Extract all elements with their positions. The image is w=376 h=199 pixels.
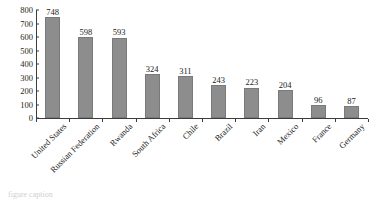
bar-rect bbox=[145, 74, 160, 118]
bar-item: 593 bbox=[102, 10, 135, 118]
bar-series: 7485985933243112432232049687 bbox=[36, 10, 368, 118]
y-axis-tick-label: 600 bbox=[20, 33, 33, 42]
bar-item: 204 bbox=[268, 10, 301, 118]
bar-value-label: 748 bbox=[46, 8, 59, 17]
bar-rect bbox=[311, 105, 326, 118]
bar-rect bbox=[78, 37, 93, 118]
bar-rect bbox=[45, 17, 60, 118]
x-axis-category-label: Mexico bbox=[276, 122, 300, 146]
y-axis-tick-label: 200 bbox=[20, 87, 33, 96]
bar-item: 223 bbox=[235, 10, 268, 118]
figure-caption: figure caption bbox=[8, 190, 370, 199]
y-axis-tick-label: 300 bbox=[20, 73, 33, 82]
bar-value-label: 243 bbox=[212, 76, 225, 85]
x-axis-category-labels: United StatesRussian FederationRwandaSou… bbox=[36, 122, 368, 178]
y-axis-tick-label: 700 bbox=[20, 19, 33, 28]
bar-rect bbox=[244, 88, 259, 118]
bar-value-label: 324 bbox=[146, 65, 159, 74]
bar-item: 598 bbox=[69, 10, 102, 118]
y-axis-tick-label: 400 bbox=[20, 60, 33, 69]
bar-item: 748 bbox=[36, 10, 69, 118]
bar-rect bbox=[112, 38, 127, 118]
bar-value-label: 204 bbox=[279, 81, 292, 90]
x-axis-tick-mark bbox=[368, 119, 369, 122]
x-axis-category-label: Rwanda bbox=[108, 122, 134, 148]
x-axis-category-label: Germany bbox=[338, 122, 366, 150]
bar-value-label: 223 bbox=[245, 78, 258, 87]
x-axis-category-label: Brazil bbox=[213, 122, 234, 143]
bar-item: 324 bbox=[136, 10, 169, 118]
y-axis-tick-label: 100 bbox=[20, 100, 33, 109]
y-axis-tick-labels: 0100200300400500600700800 bbox=[0, 0, 33, 119]
x-axis-category-label: Iran bbox=[251, 122, 267, 138]
y-axis-tick-label: 0 bbox=[29, 114, 33, 123]
bar-value-label: 87 bbox=[347, 97, 356, 106]
bar-item: 311 bbox=[169, 10, 202, 118]
x-axis-category-label: France bbox=[311, 122, 333, 144]
bar-rect bbox=[344, 106, 359, 118]
bar-rect bbox=[178, 76, 193, 118]
bar-value-label: 311 bbox=[179, 67, 191, 76]
bar-item: 87 bbox=[335, 10, 368, 118]
bar-value-label: 598 bbox=[79, 28, 92, 37]
x-axis-category-label: South Africa bbox=[131, 122, 168, 159]
bar-value-label: 96 bbox=[314, 96, 323, 105]
bar-rect bbox=[278, 90, 293, 118]
bar-rect bbox=[211, 85, 226, 118]
bar-item: 243 bbox=[202, 10, 235, 118]
bar-chart-figure: 0100200300400500600700800 74859859332431… bbox=[0, 0, 376, 199]
bar-item: 96 bbox=[302, 10, 335, 118]
y-axis-tick-label: 800 bbox=[20, 6, 33, 15]
x-axis-category-label: Chile bbox=[181, 122, 200, 141]
y-axis-tick-label: 500 bbox=[20, 46, 33, 55]
bar-value-label: 593 bbox=[113, 28, 126, 37]
